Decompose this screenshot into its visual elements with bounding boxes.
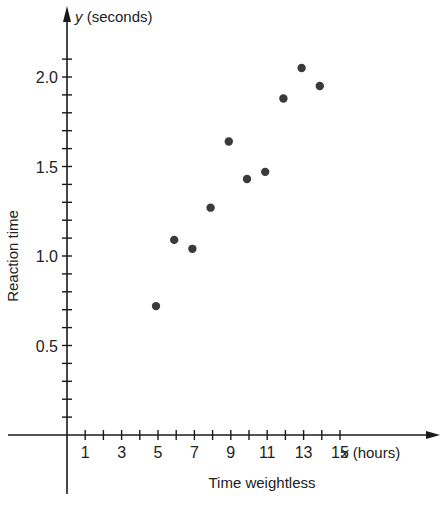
data-point: [152, 302, 160, 310]
x-tick-label: 1: [81, 444, 90, 461]
x-axis-arrow-icon: [426, 431, 440, 439]
y-axis-arrow-icon: [63, 6, 71, 22]
y-axis-name: y (seconds): [74, 8, 153, 25]
x-tick-label: 3: [117, 444, 126, 461]
x-tick-label: 11: [259, 444, 276, 461]
data-points: [152, 64, 324, 310]
x-axis-name: x (hours): [340, 444, 400, 461]
x-tick-label: 13: [295, 444, 313, 461]
data-point: [279, 94, 287, 102]
scatter-chart: 0.51.01.52.0 13579111315 y (seconds) x (…: [0, 0, 448, 509]
data-point: [316, 82, 324, 90]
axes: [8, 6, 440, 494]
y-axis-label: Reaction time: [4, 210, 21, 302]
data-point: [297, 64, 305, 72]
data-point: [243, 175, 251, 183]
data-point: [261, 168, 269, 176]
y-tick-label: 2.0: [36, 69, 58, 86]
y-tick-label: 0.5: [36, 338, 58, 355]
data-point: [188, 245, 196, 253]
x-tick-label: 7: [190, 444, 199, 461]
data-point: [206, 203, 214, 211]
y-axis-ticks: 0.51.01.52.0: [36, 59, 72, 417]
y-tick-label: 1.5: [36, 159, 58, 176]
x-tick-label: 5: [154, 444, 163, 461]
x-tick-label: 9: [226, 444, 235, 461]
x-axis-label: Time weightless: [209, 474, 316, 491]
data-point: [170, 236, 178, 244]
y-tick-label: 1.0: [36, 248, 58, 265]
data-point: [225, 137, 233, 145]
